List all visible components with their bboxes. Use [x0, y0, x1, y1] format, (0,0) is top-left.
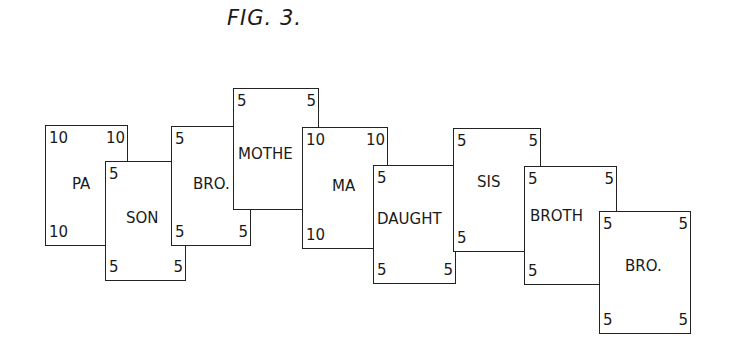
figure-title: FIG. 3.	[0, 6, 632, 30]
card-value-bottom-left: 5	[175, 225, 185, 240]
card-value-bottom-right: 5	[678, 313, 688, 328]
card-value-top-left: 5	[603, 217, 613, 232]
card-value-top-left: 5	[109, 167, 119, 182]
card-label: SON	[126, 211, 159, 226]
card-value-bottom-left: 10	[49, 225, 68, 240]
card-value-bottom-left: 5	[377, 263, 387, 278]
card-label: SIS	[477, 175, 500, 190]
card-label: BROTH	[530, 209, 583, 224]
card-label: MOTHE	[238, 147, 293, 162]
card-value-top-left: 5	[457, 134, 467, 149]
card-value-top-right: 10	[106, 131, 125, 146]
card-label: PA	[72, 177, 90, 192]
card-value-bottom-left: 5	[603, 313, 613, 328]
card-value-top-left: 5	[175, 132, 185, 147]
card-value-top-left: 10	[49, 131, 68, 146]
card-value-top-left: 10	[306, 133, 325, 148]
card-label: MA	[332, 179, 355, 194]
card-value-top-right: 5	[604, 172, 614, 187]
card-value-bottom-left: 5	[457, 231, 467, 246]
card-value-bottom-left: 10	[306, 228, 325, 243]
card-value-top-right: 5	[306, 94, 316, 109]
card-value-top-left: 5	[237, 94, 247, 109]
card-value-bottom-right: 5	[443, 263, 453, 278]
card-value-top-right: 5	[528, 134, 538, 149]
card-label: DAUGHT	[377, 212, 442, 227]
card-value-bottom-left: 5	[109, 260, 119, 275]
card-daught: 5 DAUGHT 5 5	[373, 165, 456, 284]
card-value-bottom-right: 5	[173, 260, 183, 275]
card-value-top-left: 5	[528, 172, 538, 187]
card-bro-2: 5 5 BRO. 5 5	[599, 211, 691, 334]
card-label: BRO.	[193, 177, 230, 192]
card-value-top-right: 5	[678, 217, 688, 232]
card-value-top-left: 5	[377, 171, 387, 186]
card-label: BRO.	[625, 259, 662, 274]
card-value-bottom-left: 5	[528, 264, 538, 279]
card-value-top-right: 10	[366, 133, 385, 148]
card-value-bottom-right: 5	[238, 225, 248, 240]
